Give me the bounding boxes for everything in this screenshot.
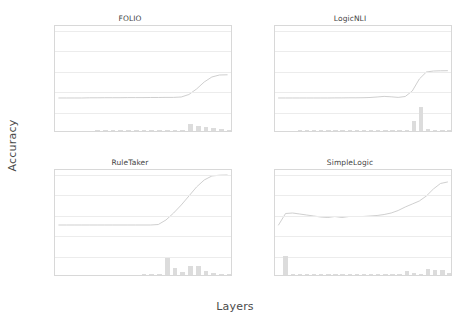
bar xyxy=(376,274,380,275)
gridline xyxy=(55,113,231,114)
subplot-folio: FOLIO 0.020.040.060.080.0100.0 xyxy=(26,14,234,138)
bar xyxy=(447,273,451,275)
bar xyxy=(397,274,401,275)
bar xyxy=(369,274,373,275)
subplot-title-logicnli: LogicNLI xyxy=(246,14,454,23)
bar xyxy=(227,274,232,275)
plot-area-folio: 0.020.040.060.080.0100.0 xyxy=(54,25,232,132)
bar xyxy=(149,130,154,131)
bar xyxy=(333,274,337,275)
bar xyxy=(283,256,287,275)
line-series-simplelogic xyxy=(275,170,451,275)
bar xyxy=(319,274,323,275)
bar xyxy=(291,274,295,275)
gridline xyxy=(55,175,231,176)
plot-area-simplelogic: 0123456789101112131415161718192021222324 xyxy=(274,169,452,276)
bar xyxy=(196,126,201,131)
bar xyxy=(142,130,147,131)
bar xyxy=(180,272,185,275)
bar xyxy=(340,130,344,131)
bar xyxy=(126,130,131,131)
gridline xyxy=(275,236,451,237)
gridline xyxy=(55,216,231,217)
line-path xyxy=(59,175,227,225)
bar xyxy=(180,130,185,131)
bar xyxy=(188,266,193,275)
line-path xyxy=(279,71,448,98)
bar xyxy=(326,130,330,131)
bar xyxy=(211,128,216,131)
gridline xyxy=(55,31,231,32)
gridline xyxy=(55,257,231,258)
bar xyxy=(219,274,224,275)
gridline xyxy=(55,51,231,52)
gridline xyxy=(55,195,231,196)
bar xyxy=(188,124,193,131)
bar xyxy=(204,271,209,275)
subplot-ruletaker: RuleTaker 0.020.040.060.080.0100.0012345… xyxy=(26,158,234,284)
bar xyxy=(426,129,430,131)
bar xyxy=(369,130,373,131)
bar xyxy=(376,130,380,131)
subplot-logicnli: LogicNLI xyxy=(246,14,454,138)
bar xyxy=(204,127,209,131)
bar xyxy=(134,130,139,131)
plot-area-logicnli xyxy=(274,25,452,132)
bar xyxy=(362,130,366,131)
bar xyxy=(355,274,359,275)
gridline xyxy=(275,72,451,73)
line-path xyxy=(279,182,448,225)
gridline xyxy=(275,92,451,93)
subplot-simplelogic: SimpleLogic 0123456789101112131415161718… xyxy=(246,158,454,284)
bar xyxy=(412,273,416,275)
bar xyxy=(440,270,444,275)
bar xyxy=(165,258,170,275)
plot-area-ruletaker: 0.020.040.060.080.0100.00123456789101112… xyxy=(54,169,232,276)
bar xyxy=(149,274,154,275)
line-series-folio xyxy=(55,26,231,131)
line-path xyxy=(59,75,227,98)
bar xyxy=(305,274,309,275)
bar xyxy=(196,266,201,275)
gridline xyxy=(275,31,451,32)
bar xyxy=(312,274,316,275)
line-series-logicnli xyxy=(275,26,451,131)
figure-y-axis-label: Accuracy xyxy=(2,0,24,290)
bar xyxy=(157,130,162,131)
bar xyxy=(95,130,100,131)
gridline xyxy=(275,51,451,52)
gridline xyxy=(275,195,451,196)
bar xyxy=(390,274,394,275)
bar xyxy=(412,121,416,131)
bar xyxy=(333,130,337,131)
bar xyxy=(405,271,409,275)
gridline xyxy=(55,92,231,93)
gridline xyxy=(55,72,231,73)
bar xyxy=(440,130,444,131)
bar xyxy=(211,273,216,275)
bar xyxy=(383,274,387,275)
bar xyxy=(390,130,394,131)
bar xyxy=(362,274,366,275)
gridline xyxy=(275,113,451,114)
bar xyxy=(447,130,451,131)
bar xyxy=(173,268,178,275)
subplot-title-simplelogic: SimpleLogic xyxy=(246,158,454,167)
bar xyxy=(165,130,170,131)
bar xyxy=(433,130,437,131)
gridline xyxy=(275,216,451,217)
bar xyxy=(298,274,302,275)
bar xyxy=(305,130,309,131)
bar xyxy=(348,130,352,131)
bar xyxy=(227,130,232,131)
bar xyxy=(433,270,437,275)
gridline xyxy=(275,175,451,176)
bar xyxy=(312,130,316,131)
bar xyxy=(383,130,387,131)
bar xyxy=(355,130,359,131)
bar xyxy=(103,130,108,131)
bar xyxy=(319,130,323,131)
line-series-ruletaker xyxy=(55,170,231,275)
bar xyxy=(173,130,178,131)
figure-x-axis-label: Layers xyxy=(0,300,470,313)
